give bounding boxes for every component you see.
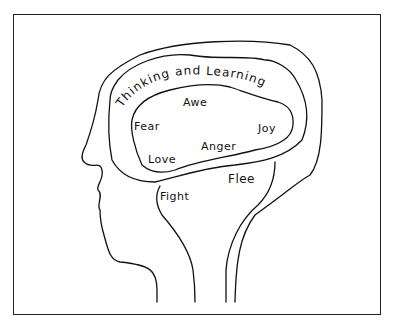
label-fight: Fight: [160, 190, 189, 203]
label-awe: Awe: [183, 96, 207, 109]
label-joy: Joy: [258, 122, 276, 135]
head-drawing: Thinking and Learning: [0, 0, 393, 330]
label-anger: Anger: [201, 140, 236, 153]
label-fear: Fear: [134, 120, 160, 133]
label-flee: Flee: [228, 172, 255, 186]
brainstem-outline: [157, 186, 195, 302]
label-love: Love: [148, 153, 176, 166]
